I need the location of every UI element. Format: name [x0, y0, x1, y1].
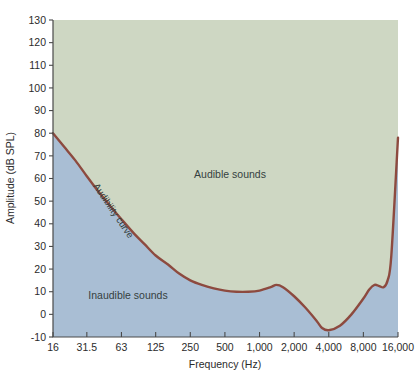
- x-tick-label: 500: [216, 341, 234, 353]
- x-tick-label: 4,000: [316, 341, 342, 353]
- y-tick-label: 50: [34, 195, 46, 207]
- y-tick-label: 20: [34, 263, 46, 275]
- y-tick-label: 120: [28, 36, 46, 48]
- audible-sounds-label: Audible sounds: [194, 168, 266, 180]
- chart-svg: 1301201101009080706050403020100-10 1631.…: [0, 0, 419, 379]
- y-tick-label: -10: [31, 331, 46, 343]
- y-tick-label: 100: [28, 82, 46, 94]
- y-tick-label: 10: [34, 285, 46, 297]
- screenshot-root: 1301201101009080706050403020100-10 1631.…: [0, 0, 419, 379]
- y-tick-label: 30: [34, 240, 46, 252]
- y-axis-title: Amplitude (dB SPL): [4, 132, 16, 224]
- y-axis-tick-labels: 1301201101009080706050403020100-10: [28, 14, 46, 343]
- x-tick-label: 31.5: [77, 341, 98, 353]
- y-tick-label: 60: [34, 172, 46, 184]
- y-tick-label: 80: [34, 127, 46, 139]
- x-tick-label: 16,000: [382, 341, 414, 353]
- y-tick-label: 130: [28, 14, 46, 26]
- audibility-curve-figure: 1301201101009080706050403020100-10 1631.…: [0, 0, 419, 379]
- x-axis-title: Frequency (Hz): [189, 358, 261, 370]
- x-tick-label: 1,000: [246, 341, 272, 353]
- x-tick-label: 8,000: [350, 341, 376, 353]
- y-tick-label: 70: [34, 150, 46, 162]
- x-tick-label: 2,000: [281, 341, 307, 353]
- x-tick-label: 125: [147, 341, 165, 353]
- x-tick-label: 63: [116, 341, 128, 353]
- y-tick-label: 40: [34, 217, 46, 229]
- x-tick-label: 250: [182, 341, 200, 353]
- y-tick-label: 90: [34, 104, 46, 116]
- x-tick-label: 16: [47, 341, 59, 353]
- x-axis-tick-labels: 1631.5631252505001,0002,0004,0008,00016,…: [47, 341, 414, 353]
- y-tick-label: 110: [29, 59, 46, 71]
- inaudible-sounds-label: Inaudible sounds: [88, 289, 167, 301]
- y-tick-label: 0: [40, 308, 46, 320]
